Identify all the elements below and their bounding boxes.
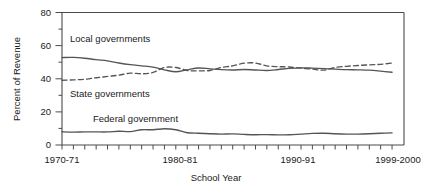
x-ticklabel-1990-91: 1990-91 bbox=[281, 154, 316, 165]
y-ticklabel-0: 0 bbox=[46, 139, 51, 150]
y-axis-title: Percent of Revenue bbox=[11, 37, 22, 121]
series-label-federal-government: Federal government bbox=[93, 113, 178, 124]
series-label-state-governments: State governments bbox=[70, 88, 150, 99]
series-label-local-governments: Local governments bbox=[70, 33, 151, 44]
x-axis-tick-labels: 1970-71 1980-81 1990-91 1999-2000 bbox=[45, 154, 421, 165]
y-ticklabel-80: 80 bbox=[40, 7, 51, 18]
y-axis-ticks bbox=[56, 13, 63, 146]
x-axis-ticks bbox=[62, 145, 392, 150]
y-ticklabel-40: 40 bbox=[40, 73, 51, 84]
series-line-state-governments bbox=[62, 63, 392, 80]
revenue-line-chart: 0 20 40 60 80 Percent of Revenue 1970-71… bbox=[0, 0, 432, 188]
chart-figure: 0 20 40 60 80 Percent of Revenue 1970-71… bbox=[0, 0, 432, 188]
y-ticklabel-60: 60 bbox=[40, 40, 51, 51]
x-ticklabel-1980-81: 1980-81 bbox=[163, 154, 198, 165]
x-ticklabel-1970-71: 1970-71 bbox=[45, 154, 80, 165]
y-axis-tick-labels: 0 20 40 60 80 bbox=[40, 7, 51, 151]
y-ticklabel-20: 20 bbox=[40, 106, 51, 117]
series-line-local-governments bbox=[62, 57, 392, 72]
x-axis-title: School Year bbox=[191, 172, 242, 183]
series-line-federal-government bbox=[62, 129, 392, 135]
x-ticklabel-1999-2000: 1999-2000 bbox=[375, 154, 420, 165]
